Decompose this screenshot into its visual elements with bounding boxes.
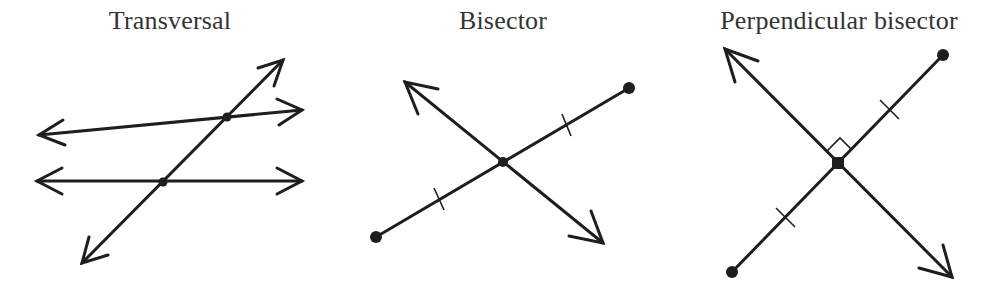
intersection-point bbox=[223, 113, 232, 122]
geometry-figures bbox=[0, 0, 1002, 290]
transversal-line bbox=[82, 60, 283, 263]
transversal-figure bbox=[37, 60, 302, 263]
lower-line bbox=[37, 168, 302, 194]
midpoint bbox=[832, 157, 844, 169]
right-angle-marker-icon bbox=[827, 138, 852, 151]
upper-line bbox=[39, 99, 302, 145]
segment-endpoint bbox=[370, 231, 382, 243]
segment-endpoint bbox=[937, 49, 949, 61]
bisector-figure bbox=[370, 82, 635, 243]
intersection-point bbox=[159, 178, 168, 187]
perpendicular-bisector-figure bbox=[725, 49, 952, 278]
midpoint bbox=[498, 157, 508, 167]
segment-endpoint bbox=[726, 266, 738, 278]
segment-endpoint bbox=[623, 82, 635, 94]
